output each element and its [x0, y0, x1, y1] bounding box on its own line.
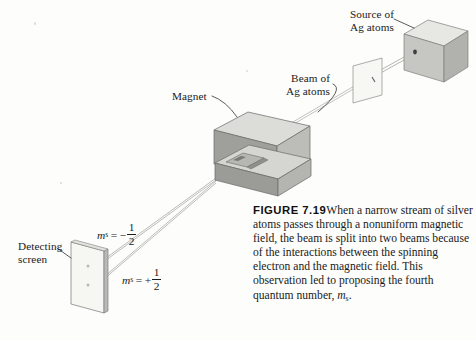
ms-numerator-lower: 1 — [152, 267, 162, 279]
screen-spot-upper — [87, 265, 90, 268]
scan-speckle — [168, 213, 170, 215]
source-oven-cube — [404, 20, 468, 82]
figure-number: FIGURE 7.19 — [253, 204, 326, 216]
figure-page: Source of Ag atoms Beam of Ag atoms Magn… — [0, 0, 476, 340]
scan-speckle — [246, 70, 248, 72]
ms-denominator-upper: 2 — [127, 236, 137, 248]
screen-spot-lower — [87, 284, 90, 287]
ms-symbol-upper: m — [97, 229, 105, 241]
oven-aperture-icon — [413, 50, 417, 55]
label-ms-plus-half: ms = + 1 2 — [122, 267, 161, 292]
scan-speckle — [60, 182, 62, 184]
label-source-line1: Source of — [350, 8, 394, 20]
ms-denominator-lower: 2 — [152, 281, 162, 293]
ms-symbol-lower: m — [122, 274, 130, 286]
label-beam-of-ag-atoms: Beam of Ag atoms — [266, 72, 330, 97]
ms-sign-upper: − — [120, 229, 126, 241]
label-ms-minus-half: ms = − 1 2 — [97, 222, 136, 247]
caption-period: . — [349, 289, 352, 302]
ms-subscript-lower: s — [130, 275, 133, 284]
collimator-slit-plate — [353, 58, 382, 103]
ms-numerator-upper: 1 — [127, 222, 137, 234]
ms-fraction-lower: 1 2 — [152, 267, 162, 292]
label-screen-line2: screen — [18, 253, 47, 265]
caption-ms-symbol: m — [337, 289, 345, 302]
beam-split-upper — [106, 178, 216, 260]
detecting-screen-panel — [71, 240, 108, 313]
label-source-of-ag-atoms: Source of Ag atoms — [328, 8, 394, 33]
figure-caption-text: When a narrow stream of silver atoms pas… — [253, 204, 473, 302]
ms-subscript-upper: s — [105, 230, 108, 239]
label-source-line2: Ag atoms — [350, 21, 394, 33]
ms-equals-upper: = — [111, 229, 117, 241]
label-beam-line2: Ag atoms — [286, 85, 330, 97]
ms-sign-lower: + — [145, 274, 151, 286]
ms-fraction-upper: 1 2 — [127, 222, 137, 247]
ms-equals-lower: = — [136, 274, 142, 286]
leader-magnet — [212, 96, 237, 117]
label-beam-line1: Beam of — [291, 72, 330, 84]
scan-speckle — [34, 22, 36, 25]
label-detecting-screen: Detecting screen — [18, 240, 62, 265]
leader-source — [394, 19, 414, 28]
figure-caption: FIGURE 7.19When a narrow stream of silve… — [253, 203, 475, 306]
label-screen-line1: Detecting — [18, 240, 62, 252]
label-magnet: Magnet — [172, 90, 207, 103]
